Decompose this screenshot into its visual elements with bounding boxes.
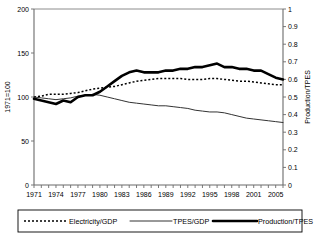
plot-frame bbox=[34, 9, 283, 185]
x-tick-label: 1983 bbox=[114, 191, 130, 198]
x-tick-label: 1974 bbox=[48, 191, 64, 198]
x-tick-label: 1971 bbox=[26, 191, 42, 198]
x-tick-label: 1986 bbox=[136, 191, 152, 198]
y-tick-label: 50 bbox=[21, 138, 29, 145]
x-tick-label: 1998 bbox=[224, 191, 240, 198]
x-tick-label: 1989 bbox=[158, 191, 174, 198]
right-axis-ticks: 00.10.20.30.40.50.60.70.80.91 bbox=[283, 6, 298, 189]
y-tick-label: 0 bbox=[25, 182, 29, 189]
series-line bbox=[34, 79, 283, 97]
legend-label: TPES/GDP bbox=[173, 217, 210, 226]
y2-tick-label: 0.1 bbox=[288, 164, 298, 171]
y2-tick-label: 0.9 bbox=[288, 23, 298, 30]
y2-tick-label: 1 bbox=[288, 6, 292, 13]
y-tick-label: 150 bbox=[17, 50, 29, 57]
x-tick-label: 2005 bbox=[268, 191, 284, 198]
chart-container: 050100150200 00.10.20.30.40.50.60.70.80.… bbox=[0, 0, 316, 238]
y2-axis-title: Production/TPES bbox=[304, 70, 311, 124]
y2-tick-label: 0.4 bbox=[288, 111, 298, 118]
legend-label: Electricity/GDP bbox=[69, 217, 118, 226]
y2-tick-label: 0.6 bbox=[288, 76, 298, 83]
series-line bbox=[34, 94, 283, 122]
y-tick-label: 100 bbox=[17, 94, 29, 101]
y-axis-title: 1971=100 bbox=[4, 81, 11, 112]
chart-legend: Electricity/GDPTPES/GDPProduction/TPES bbox=[18, 210, 313, 232]
y2-tick-label: 0.7 bbox=[288, 58, 298, 65]
x-tick-label: 1980 bbox=[92, 191, 108, 198]
data-series bbox=[34, 64, 283, 123]
x-tick-label: 1992 bbox=[180, 191, 196, 198]
y2-tick-label: 0.5 bbox=[288, 94, 298, 101]
x-tick-label: 1995 bbox=[202, 191, 218, 198]
x-tick-label: 1977 bbox=[70, 191, 86, 198]
y2-tick-label: 0.8 bbox=[288, 41, 298, 48]
x-axis-labels: 1971197419771980198319861989199219951998… bbox=[26, 191, 283, 198]
y-tick-label: 200 bbox=[17, 6, 29, 13]
legend-label: Production/TPES bbox=[258, 217, 313, 226]
x-tick-label: 2001 bbox=[246, 191, 262, 198]
y2-tick-label: 0.2 bbox=[288, 146, 298, 153]
y2-tick-label: 0.3 bbox=[288, 129, 298, 136]
y2-tick-label: 0 bbox=[288, 182, 292, 189]
line-chart: 050100150200 00.10.20.30.40.50.60.70.80.… bbox=[0, 0, 316, 238]
left-axis-ticks: 050100150200 bbox=[17, 6, 34, 189]
